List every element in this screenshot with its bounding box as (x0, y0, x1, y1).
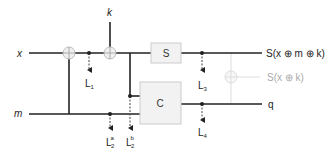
c-box-label: C (156, 98, 163, 109)
xor-icon (63, 47, 75, 59)
input-k-label: k (107, 7, 113, 18)
ghost-branch: S(x ⊕ k) (225, 53, 304, 104)
leakage-label-l1: L1 (85, 78, 95, 90)
input-m-label: m (14, 108, 22, 119)
c-box: C (140, 82, 181, 124)
ghost-output-label: S(x ⊕ k) (267, 72, 304, 83)
leakage-label-l2a: La2 (106, 135, 115, 149)
leakage-label-l3: L3 (198, 80, 208, 92)
output-q-label: q (268, 99, 274, 110)
s-box-label: S (163, 48, 170, 59)
xor-icon (104, 47, 116, 59)
output-main-label: S(x ⊕ m ⊕ k) (266, 48, 325, 59)
ghost-xor-icon (225, 71, 237, 83)
leakage-label-l4: L4 (198, 127, 208, 139)
input-x-label: x (16, 48, 23, 59)
leakage-label-l2b: Lb2 (126, 135, 135, 149)
masking-circuit-diagram: S(x ⊕ k) (0, 0, 332, 158)
s-box: S (151, 43, 181, 63)
